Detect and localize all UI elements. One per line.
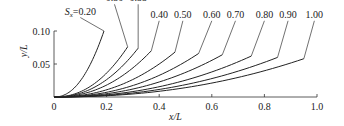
x-tick-label: 0.4 (153, 101, 166, 112)
y-tick-label: 0.05 (33, 59, 51, 70)
curve-label: 0.80 (256, 9, 274, 20)
x-tick-label: 0 (52, 101, 57, 112)
y-tick-label: 0.10 (33, 26, 51, 37)
x-tick-label: 1.0 (311, 101, 324, 112)
axes: 0.050.1000.20.40.60.81.0x/Ly/L (18, 26, 323, 123)
curve-label: 0.70 (227, 9, 245, 20)
x-axis-label: x/L (168, 111, 182, 122)
curve-label: 0.30 (106, 0, 124, 3)
leader-line (251, 21, 264, 56)
leader-line (199, 21, 212, 54)
x-tick-label: 0.2 (100, 101, 113, 112)
y-axis-label: y/L (18, 44, 29, 58)
chart-canvas: 0.050.1000.20.40.60.81.0x/Ly/L Sx=0.200.… (0, 0, 344, 126)
curve-label: Sx=0.20 (65, 6, 96, 19)
curve-label: 0.60 (203, 9, 221, 20)
leader-line (304, 21, 315, 59)
x-tick-label: 0.8 (258, 101, 271, 112)
leader-line (114, 4, 127, 47)
curve-label: 1.00 (306, 9, 324, 20)
curve-label: 0.90 (279, 9, 297, 20)
curve-s-0-40 (54, 51, 151, 97)
curve-labels: Sx=0.200.300.350.400.500.600.700.800.901… (65, 0, 323, 59)
curve-label: 0.35 (129, 0, 147, 3)
leader-line (278, 21, 289, 58)
curve-s-0-20 (54, 31, 104, 97)
x-tick-label: 0.6 (206, 101, 219, 112)
curve-label: 0.50 (174, 9, 192, 20)
chart: 0.050.1000.20.40.60.81.0x/Ly/L Sx=0.200.… (0, 0, 344, 126)
curve-label: 0.40 (150, 9, 168, 20)
curves (54, 31, 304, 97)
leader-line (151, 21, 159, 51)
leader-line (80, 18, 104, 32)
leader-line (175, 21, 183, 52)
leader-line (222, 21, 235, 55)
